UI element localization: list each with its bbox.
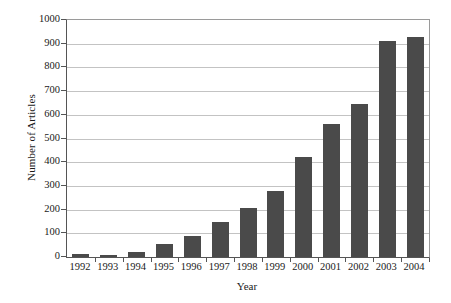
y-axis-tick-label: 100 (34, 227, 60, 237)
x-axis-tick-label: 1997 (205, 261, 233, 273)
x-axis-tick-label: 1993 (94, 261, 122, 273)
x-axis-title: Year (66, 280, 428, 293)
x-axis-tick-label: 1994 (122, 261, 150, 273)
bar (379, 41, 396, 257)
y-axis-tick-mark (61, 161, 66, 162)
y-axis-tick-mark (61, 232, 66, 233)
y-axis-tick-labels: 01002003004005006007008009001000 (34, 19, 60, 256)
y-axis-tick-label: 400 (34, 156, 60, 166)
y-axis-tick-mark (61, 256, 66, 257)
y-axis-tick-label: 600 (34, 109, 60, 119)
x-axis-tick-label: 1995 (150, 261, 178, 273)
bar (351, 104, 368, 257)
x-axis-tick-labels: 1992199319941995199619971998199920002001… (66, 261, 428, 275)
y-axis-tick-mark (61, 209, 66, 210)
bar (295, 157, 312, 257)
bar (267, 191, 284, 257)
y-axis-tick-mark (61, 19, 66, 20)
bar-chart-figure: Number of Articles 010020030040050060070… (0, 0, 451, 303)
plot-area (66, 19, 430, 258)
y-axis-tick-label: 900 (34, 38, 60, 48)
y-axis-tick-mark (61, 114, 66, 115)
y-axis-tick-mark (61, 185, 66, 186)
y-axis-tick-mark (61, 66, 66, 67)
x-axis-tick-label: 2004 (400, 261, 428, 273)
x-axis-tick-label: 1996 (177, 261, 205, 273)
bar (212, 222, 229, 257)
x-axis-tick-label: 1992 (66, 261, 94, 273)
y-axis-tick-label: 1000 (34, 14, 60, 24)
y-axis-tick-label: 200 (34, 204, 60, 214)
bar (240, 208, 257, 257)
y-axis-tick-mark (61, 138, 66, 139)
y-axis-tick-label: 500 (34, 133, 60, 143)
y-axis-tick-mark (61, 43, 66, 44)
bar (72, 254, 89, 257)
y-axis-tick-label: 300 (34, 180, 60, 190)
x-axis-tick-label: 2002 (344, 261, 372, 273)
bar (407, 37, 424, 257)
x-axis-tick-label: 2001 (317, 261, 345, 273)
y-axis-tick-label: 0 (34, 251, 60, 261)
y-axis-tick-label: 800 (34, 61, 60, 71)
y-axis-tick-mark (61, 90, 66, 91)
bar (100, 255, 117, 257)
x-axis-tick-label: 2003 (372, 261, 400, 273)
x-axis-tick-label: 2000 (289, 261, 317, 273)
x-axis-tick-label: 1999 (261, 261, 289, 273)
bar (323, 124, 340, 257)
bar-series (67, 20, 429, 257)
bar (128, 252, 145, 257)
bar (184, 236, 201, 257)
y-axis-tick-label: 700 (34, 85, 60, 95)
bar (156, 244, 173, 257)
x-axis-tick-label: 1998 (233, 261, 261, 273)
x-axis-tick-mark (429, 258, 430, 262)
